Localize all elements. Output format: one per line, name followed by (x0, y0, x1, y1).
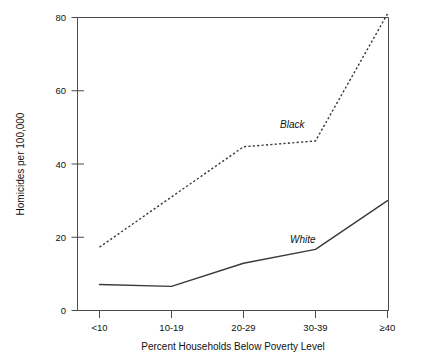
series-line-black (100, 14, 388, 247)
y-tick-label-60: 60 (55, 85, 66, 96)
chart-container: 0 20 40 60 80 <10 10-19 20-29 30-39 ≥40 … (0, 0, 425, 352)
x-tick-label-4: 30-39 (303, 322, 327, 333)
series-line-white (100, 201, 388, 287)
x-tick-label-5: ≥40 (380, 322, 396, 333)
y-axis-title: Homicides per 100,000 (15, 112, 26, 215)
series-label-white: White (290, 234, 316, 245)
series-label-black: Black (280, 119, 305, 130)
x-tick-label-3: 20-29 (231, 322, 255, 333)
y-tick-label-0: 0 (61, 305, 66, 316)
y-tick-label-20: 20 (55, 232, 66, 243)
x-axis-title: Percent Households Below Poverty Level (141, 341, 324, 352)
y-tick-label-80: 80 (55, 12, 66, 23)
y-tick-label-40: 40 (55, 159, 66, 170)
x-tick-label-1: <10 (91, 322, 107, 333)
line-chart: 0 20 40 60 80 <10 10-19 20-29 30-39 ≥40 … (0, 0, 425, 352)
x-tick-label-2: 10-19 (159, 322, 183, 333)
